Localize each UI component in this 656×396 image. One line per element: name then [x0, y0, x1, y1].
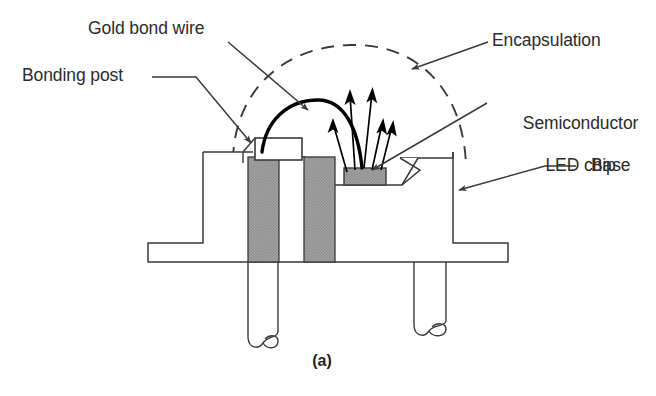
leader-encapsulation: [412, 42, 488, 69]
label-base: Base: [591, 155, 631, 176]
leads: [248, 262, 446, 348]
label-gold-bond-wire: Gold bond wire: [88, 18, 204, 39]
post-column-right: [304, 157, 335, 262]
label-led-chip-line1: Semiconductor: [523, 113, 638, 133]
leader-gold-bond-wire: [228, 42, 308, 110]
label-encapsulation: Encapsulation: [492, 30, 601, 51]
lead-right: [414, 262, 446, 336]
figure-caption: (a): [272, 352, 372, 370]
label-semiconductor-led-chip: Semiconductor LED chip: [491, 92, 651, 197]
post-column-left: [248, 157, 279, 262]
led-chip: [344, 168, 386, 185]
led-cross-section-figure: Gold bond wire Bonding post Encapsulatio…: [0, 0, 656, 396]
figure-drawing: [0, 0, 656, 396]
lead-left: [248, 262, 278, 348]
label-bonding-post: Bonding post: [22, 65, 123, 86]
